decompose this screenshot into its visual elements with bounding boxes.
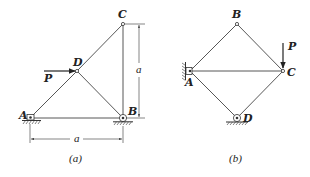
caption-a: (a) (69, 152, 82, 165)
member-ab (190, 24, 237, 71)
member-bc (237, 24, 283, 71)
dimension-label-vertical: a (136, 63, 142, 75)
node-label-b: B (127, 105, 137, 118)
member-ad (30, 71, 77, 118)
joint-c-icon (121, 22, 124, 25)
member-db (77, 71, 123, 118)
load-label-p: P (43, 72, 53, 85)
node-label-c: C (287, 66, 296, 79)
node-label-d: D (242, 112, 253, 125)
truss-diagrams: C D A B P a a (a) (0, 0, 310, 177)
member-dc (237, 71, 283, 118)
node-label-a: A (18, 109, 28, 122)
member-dc (77, 24, 123, 71)
node-label-b: B (231, 8, 241, 21)
member-ad (190, 71, 237, 118)
dimension-vertical (125, 24, 145, 118)
node-label-a: A (184, 76, 194, 89)
caption-b: (b) (229, 152, 242, 165)
joint-d-icon (75, 69, 78, 72)
node-label-d: D (72, 56, 83, 69)
load-label-p: P (287, 40, 297, 53)
figure-b: B P C A D (b) (182, 8, 297, 165)
joint-c-icon (281, 69, 284, 72)
figure-a: C D A B P a a (a) (18, 8, 145, 165)
dimension-label-horizontal: a (74, 132, 80, 144)
joint-b-icon (235, 22, 238, 25)
node-label-c: C (118, 8, 127, 21)
